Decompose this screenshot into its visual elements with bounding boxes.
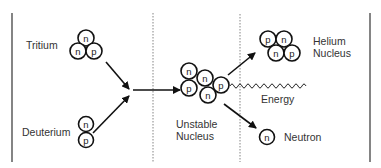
helium-nucleus: p n n p <box>260 31 300 61</box>
energy-label: Energy <box>261 93 295 105</box>
unstable-label-1: Unstable <box>176 118 218 130</box>
svg-text:p: p <box>289 48 294 59</box>
tritium-label: Tritium <box>26 39 58 51</box>
svg-text:p: p <box>265 34 270 45</box>
free-neutron: n <box>260 130 275 145</box>
neutron-label: Neutron <box>284 131 322 143</box>
helium-label-2: Nucleus <box>313 47 351 59</box>
svg-text:n: n <box>83 119 88 130</box>
deuterium-arrow <box>93 96 129 133</box>
svg-text:n: n <box>186 66 191 77</box>
tritium-arrow <box>106 62 129 89</box>
svg-text:n: n <box>205 90 210 101</box>
svg-text:n: n <box>264 132 269 143</box>
svg-text:p: p <box>186 83 191 94</box>
svg-text:n: n <box>75 46 80 57</box>
unstable-label-2: Nucleus <box>176 130 214 142</box>
svg-text:n: n <box>83 33 88 44</box>
svg-text:n: n <box>281 34 286 45</box>
tritium-nucleus: n n p <box>70 30 102 59</box>
energy-wave <box>230 84 306 88</box>
helium-label-1: Helium <box>313 35 346 47</box>
svg-text:n: n <box>273 48 278 59</box>
svg-text:p: p <box>83 135 88 146</box>
helium-arrow <box>228 53 255 75</box>
unstable-nucleus: n n p n p <box>181 63 229 103</box>
svg-text:p: p <box>218 80 223 91</box>
deuterium-nucleus: n p <box>79 117 94 148</box>
deuterium-label: Deuterium <box>22 126 71 138</box>
fusion-diagram: Tritium n n p Deuterium n p n n p n p Un… <box>0 0 381 168</box>
svg-text:p: p <box>91 46 96 57</box>
svg-text:n: n <box>202 73 207 84</box>
